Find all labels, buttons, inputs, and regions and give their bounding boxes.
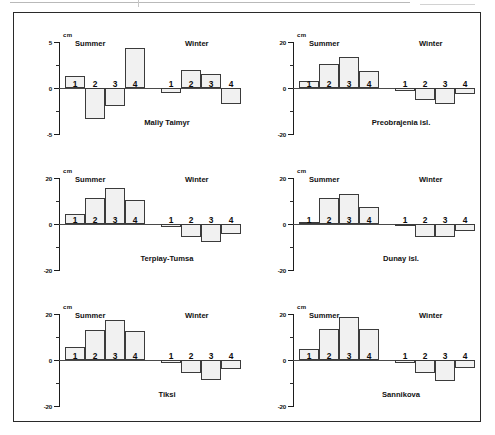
season-label-summer: Summer [75,175,105,184]
y-axis-unit-label: cm [63,32,72,38]
season-label-summer: Summer [309,311,339,320]
scan-artifact-line [10,2,410,3]
bar-category-label: 1 [65,352,85,360]
y-axis-tick-minor [290,247,294,248]
bar [85,88,105,119]
bar [415,360,435,373]
y-axis-unit-label: cm [63,304,72,310]
y-axis-tick-major [288,134,294,135]
bar-category-label: 3 [201,352,221,360]
bar-category-label: 4 [455,352,475,360]
chart-panel: 200-20cmSummerWinterTiksi12341234 [13,288,247,424]
bar-category-label: 4 [455,216,475,224]
bar-category-label: 2 [181,216,201,224]
y-axis-tick-label: -5 [27,131,52,138]
bar-category-label: 4 [125,216,145,224]
season-label-winter: Winter [419,311,443,320]
y-axis-tick-major [54,134,60,135]
bar [161,88,181,93]
bar-category-label: 4 [359,216,379,224]
bar-category-label: 3 [435,80,455,88]
y-axis-tick-minor [56,247,60,248]
bar-category-label: 1 [161,352,181,360]
station-name-label: Preobrajenia isl. [313,118,489,127]
y-axis-unit-label: cm [297,32,306,38]
bar-category-label: 2 [85,80,105,88]
y-axis-tick-minor [290,337,294,338]
season-label-winter: Winter [185,39,209,48]
bar [435,360,455,381]
bar-category-label: 2 [181,352,201,360]
bar-category-label: 2 [319,80,339,88]
season-label-summer: Summer [75,311,105,320]
bar-category-label: 1 [65,216,85,224]
bar [221,88,241,104]
y-axis-tick-label: 0 [27,221,52,228]
bar-category-label: 1 [65,80,85,88]
y-axis-tick-minor [56,337,60,338]
y-axis-tick-minor [56,65,60,66]
bar [415,88,435,100]
bar-category-label: 1 [395,352,415,360]
bar [201,224,221,242]
bar-category-label: 4 [125,352,145,360]
bar [105,88,125,106]
y-axis-tick-label: 20 [27,311,52,318]
season-label-summer: Summer [309,175,339,184]
bar-category-label: 3 [105,352,125,360]
y-axis-tick-major [288,178,294,179]
y-axis-tick-label: -20 [27,403,52,410]
chart-panel: 200-20cmSummerWinterSannikova12341234 [247,288,481,424]
bar-category-label: 1 [395,80,415,88]
bar [415,224,435,237]
season-label-summer: Summer [75,39,105,48]
bar-category-label: 4 [359,80,379,88]
bar-category-label: 3 [435,216,455,224]
station-name-label: Maliy Taimyr [79,118,255,127]
bar-category-label: 1 [161,80,181,88]
season-label-winter: Winter [419,39,443,48]
bar-category-label: 2 [181,80,201,88]
y-axis-tick-label: 0 [261,85,286,92]
y-axis-tick-label: 20 [261,175,286,182]
bar [435,88,455,104]
bar [455,88,475,94]
bar-category-label: 2 [415,352,435,360]
station-name-label: Terpiay-Tumsa [79,254,255,263]
bar [455,224,475,231]
bar-category-label: 3 [201,80,221,88]
y-axis-tick-minor [290,383,294,384]
y-axis-tick-label: 0 [27,85,52,92]
bar-category-label: 2 [319,352,339,360]
y-axis-tick-label: -20 [261,403,286,410]
bar-category-label: 4 [221,352,241,360]
y-axis-tick-label: 20 [261,39,286,46]
y-axis-tick-major [54,42,60,43]
y-axis-tick-label: 0 [27,357,52,364]
bar-category-label: 1 [299,80,319,88]
y-axis-tick-label: 20 [27,175,52,182]
y-axis-tick-major [54,406,60,407]
y-axis-tick-major [288,314,294,315]
y-axis-unit-label: cm [63,168,72,174]
bar [395,360,415,363]
station-name-label: Dunay isl. [313,254,489,263]
bar-category-label: 3 [339,352,359,360]
y-axis-tick-label: -20 [261,131,286,138]
y-axis-tick-label: 5 [27,39,52,46]
bar [435,224,455,237]
y-axis-tick-major [54,270,60,271]
bar-category-label: 4 [221,80,241,88]
bar [455,360,475,368]
bar [181,360,201,373]
bar-category-label: 3 [435,352,455,360]
bar-category-label: 1 [299,352,319,360]
bar-category-label: 4 [125,80,145,88]
season-label-winter: Winter [185,311,209,320]
y-axis-unit-label: cm [297,304,306,310]
season-label-winter: Winter [185,175,209,184]
y-axis-tick-minor [56,383,60,384]
season-label-winter: Winter [419,175,443,184]
bar-category-label: 2 [85,352,105,360]
bar [221,360,241,369]
